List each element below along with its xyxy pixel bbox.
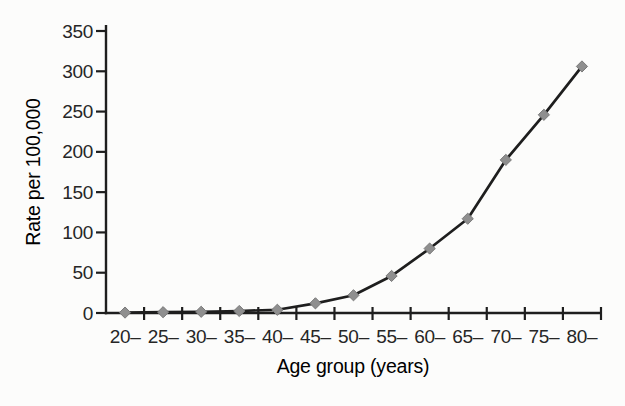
x-tick-label: 45– xyxy=(300,326,332,347)
x-tick-label: 35– xyxy=(224,326,256,347)
x-tick-label: 50– xyxy=(338,326,370,347)
x-tick-label: 55– xyxy=(376,326,408,347)
x-tick-label: 40– xyxy=(262,326,294,347)
y-tick-label: 250 xyxy=(62,101,93,122)
x-tick-label: 70– xyxy=(490,326,522,347)
x-tick-label: 20– xyxy=(110,326,142,347)
x-tick-label: 60– xyxy=(414,326,446,347)
x-axis-title: Age group (years) xyxy=(277,355,430,378)
y-tick-label: 200 xyxy=(62,141,93,162)
y-tick-label: 350 xyxy=(62,21,93,42)
y-tick-label: 300 xyxy=(62,61,93,82)
y-tick-label: 150 xyxy=(62,182,93,203)
line-chart-canvas: 05010015020025030035020–25–30–35–40–45–5… xyxy=(0,0,625,406)
x-tick-label: 65– xyxy=(452,326,484,347)
y-axis-title: Rate per 100,000 xyxy=(22,98,45,246)
chart-figure: 05010015020025030035020–25–30–35–40–45–5… xyxy=(0,0,625,406)
y-tick-label: 50 xyxy=(72,262,93,283)
x-tick-label: 80– xyxy=(567,326,599,347)
x-tick-label: 75– xyxy=(528,326,560,347)
x-tick-label: 30– xyxy=(186,326,218,347)
x-tick-label: 25– xyxy=(148,326,180,347)
y-tick-label: 100 xyxy=(62,222,93,243)
y-tick-label: 0 xyxy=(83,303,93,324)
